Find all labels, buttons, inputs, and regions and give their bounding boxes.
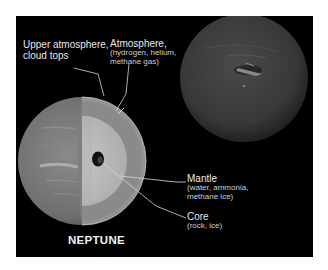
diagram-panel: Upper atmosphere, cloud tops Atmosphere,… <box>16 16 313 257</box>
label-atmosphere: Atmosphere, (hydrogen, helium, methane g… <box>110 38 176 67</box>
leader-upper-atmosphere <box>74 68 104 96</box>
diagram-title: NEPTUNE <box>68 234 125 246</box>
label-upper-atmosphere-line1: Upper atmosphere, <box>23 39 109 50</box>
label-core: Core (rock, ice) <box>187 211 222 231</box>
label-mantle-line2: methane ice) <box>187 193 248 202</box>
leader-atmosphere <box>116 64 129 111</box>
label-atmosphere-line2: methane gas) <box>110 58 176 67</box>
label-core-line1: (rock, ice) <box>187 222 222 231</box>
neptune-cutaway <box>18 97 146 225</box>
label-upper-atmosphere-line2: cloud tops <box>23 50 109 61</box>
label-mantle: Mantle (water, ammonia, methane ice) <box>187 173 248 202</box>
label-upper-atmosphere: Upper atmosphere, cloud tops <box>23 39 109 61</box>
neptune-photo <box>180 16 308 142</box>
